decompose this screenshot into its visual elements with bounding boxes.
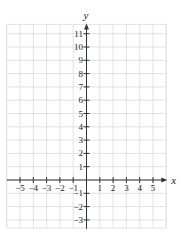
y-tick-label: −2 [73, 202, 83, 212]
y-tick-label: 4 [79, 122, 84, 132]
y-tick-label: 8 [79, 69, 84, 79]
y-tick-label: −3 [73, 215, 83, 225]
y-tick-label: 9 [79, 55, 84, 65]
y-tick-label: 7 [79, 82, 84, 92]
y-tick-label: 10 [74, 42, 84, 52]
y-tick-label: 2 [79, 148, 84, 158]
y-tick-label: 1 [79, 162, 84, 172]
x-tick-label: −3 [42, 183, 52, 193]
x-tick-label: 2 [111, 183, 116, 193]
x-tick-label: −4 [29, 183, 39, 193]
y-axis-label: y [83, 9, 89, 21]
x-tick-label: 4 [137, 183, 142, 193]
axes: x y [7, 9, 177, 228]
coordinate-plane: x y −5−4−3−2−112345−3−2−11234567891011 [0, 0, 186, 240]
x-tick-label: 3 [124, 183, 129, 193]
y-tick-label: −1 [73, 188, 83, 198]
y-tick-label: 11 [74, 29, 83, 39]
x-tick-label: −2 [55, 183, 65, 193]
x-axis-label: x [170, 174, 176, 186]
y-tick-label: 5 [79, 109, 84, 119]
x-tick-label: 5 [151, 183, 156, 193]
x-tick-label: −5 [15, 183, 25, 193]
y-tick-label: 3 [79, 135, 84, 145]
y-tick-label: 6 [79, 95, 84, 105]
x-tick-label: 1 [98, 183, 103, 193]
